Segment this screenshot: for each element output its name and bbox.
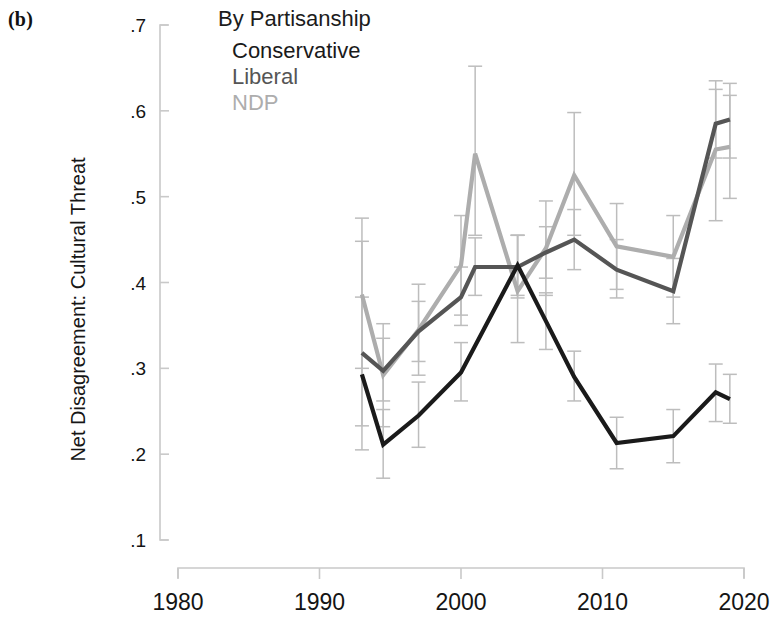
y-tick-label: .1: [130, 530, 146, 551]
x-tick-label: 2010: [577, 589, 628, 615]
y-tick-label: .4: [130, 273, 146, 294]
y-tick-label: .5: [130, 187, 146, 208]
x-axis: 19801990200020102020: [152, 568, 769, 615]
y-tick-label: .2: [130, 444, 146, 465]
x-tick-label: 1990: [294, 589, 345, 615]
y-axis: .1.2.3.4.5.6.7: [130, 15, 169, 551]
x-tick-label: 2020: [718, 589, 769, 615]
figure-panel-b: (b) By Partisanship Conservative Liberal…: [0, 0, 776, 632]
y-tick-label: .7: [130, 15, 146, 36]
x-tick-label: 2000: [435, 589, 486, 615]
y-tick-label: .3: [130, 358, 146, 379]
chart-plot-area: .1.2.3.4.5.6.7 19801990200020102020: [0, 0, 776, 632]
y-tick-label: .6: [130, 101, 146, 122]
x-tick-label: 1980: [152, 589, 203, 615]
